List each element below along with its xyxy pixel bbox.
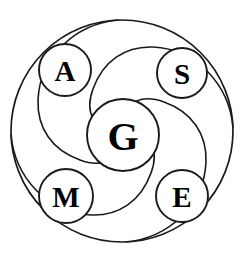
- node-label-s: S: [174, 58, 190, 90]
- node-label-e: E: [172, 181, 191, 213]
- diagram-root: A S M E G: [0, 0, 247, 262]
- node-label-m: M: [52, 181, 79, 213]
- node-label-g: G: [107, 114, 138, 159]
- agsme-diagram-svg: A S M E G: [0, 0, 247, 262]
- node-label-a: A: [55, 55, 76, 87]
